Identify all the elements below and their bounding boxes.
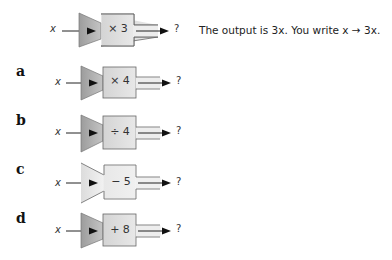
exercise-machine: x − 5 ? xyxy=(0,161,200,205)
exercise-machine: x × 4 ? xyxy=(0,62,200,106)
output-arrowhead xyxy=(160,28,169,35)
exercise-machine: x ÷ 4 ? xyxy=(0,112,200,156)
function-machine-diagram xyxy=(0,9,200,53)
example-machine: x × 3 ? xyxy=(0,9,200,53)
function-machine-diagram xyxy=(0,210,200,254)
output-placeholder: ? xyxy=(176,176,181,187)
output-placeholder: ? xyxy=(176,125,181,136)
operation-label: − 5 xyxy=(105,175,137,188)
function-machine-diagram xyxy=(0,112,200,156)
operation-label: × 4 xyxy=(104,74,136,87)
output-placeholder: ? xyxy=(176,223,181,234)
function-machine-diagram xyxy=(0,161,200,207)
operation-label: × 3 xyxy=(102,22,134,35)
function-machine-diagram xyxy=(0,62,200,106)
exercise-machine: x + 8 ? xyxy=(0,210,200,254)
explanation-text: The output is 3x. You write x → 3x. xyxy=(199,24,380,36)
operation-label: ÷ 4 xyxy=(104,125,136,138)
output-placeholder: ? xyxy=(176,75,181,86)
operation-label: + 8 xyxy=(104,223,136,236)
output-placeholder: ? xyxy=(174,23,179,34)
